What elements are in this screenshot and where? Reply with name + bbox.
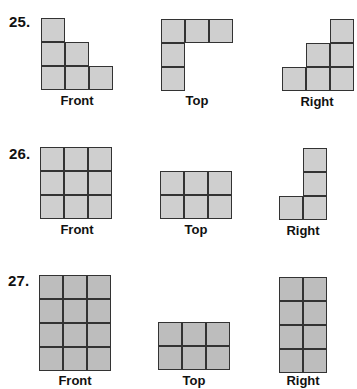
view-label-top: Top <box>154 373 234 388</box>
grid-cell <box>185 19 209 43</box>
grid-cell <box>64 195 88 219</box>
grid-cell <box>303 277 327 301</box>
grid-cell <box>65 66 89 90</box>
grid-cell <box>89 66 113 90</box>
grid-cell <box>40 195 64 219</box>
problem-number: 25. <box>9 13 30 30</box>
grid-cell <box>63 275 87 299</box>
grid-cell <box>64 171 88 195</box>
grid-cell <box>63 347 87 371</box>
grid-cell <box>65 42 89 66</box>
view-label-right: Right <box>263 223 343 238</box>
grid-cell <box>40 147 64 171</box>
grid-cell <box>303 325 327 349</box>
grid-cell <box>160 171 184 195</box>
grid-cell <box>182 346 206 370</box>
grid-cell <box>87 275 111 299</box>
grid-cell <box>303 172 327 196</box>
grid-cell <box>87 347 111 371</box>
grid-cell <box>41 66 65 90</box>
grid-cell <box>64 147 88 171</box>
grid-cell <box>206 346 230 370</box>
grid-cell <box>39 323 63 347</box>
grid-cell <box>88 147 112 171</box>
grid-cell <box>206 322 230 346</box>
grid-cell <box>161 67 185 91</box>
grid-cell <box>330 19 354 43</box>
grid-cell <box>306 67 330 91</box>
view-label-top: Top <box>156 222 236 237</box>
problem-number: 27. <box>8 272 29 289</box>
grid-cell <box>88 171 112 195</box>
grid-cell <box>330 43 354 67</box>
grid-cell <box>158 346 182 370</box>
grid-cell <box>306 43 330 67</box>
grid-cell <box>63 299 87 323</box>
grid-cell <box>303 148 327 172</box>
grid-cell <box>160 195 184 219</box>
grid-cell <box>279 325 303 349</box>
grid-cell <box>87 323 111 347</box>
view-label-front: Front <box>37 93 117 108</box>
grid-cell <box>88 195 112 219</box>
grid-cell <box>40 171 64 195</box>
grid-cell <box>158 322 182 346</box>
grid-cell <box>303 196 327 220</box>
grid-cell <box>182 322 206 346</box>
grid-cell <box>279 349 303 373</box>
grid-cell <box>208 195 232 219</box>
grid-cell <box>39 299 63 323</box>
grid-cell <box>279 301 303 325</box>
grid-cell <box>330 67 354 91</box>
grid-cell <box>303 301 327 325</box>
grid-cell <box>87 299 111 323</box>
grid-cell <box>279 277 303 301</box>
view-label-front: Front <box>37 222 117 237</box>
grid-cell <box>282 67 306 91</box>
grid-cell <box>208 171 232 195</box>
view-label-right: Right <box>277 94 357 109</box>
grid-cell <box>63 323 87 347</box>
problem-number: 26. <box>9 145 30 162</box>
grid-cell <box>39 347 63 371</box>
grid-cell <box>39 275 63 299</box>
grid-cell <box>161 43 185 67</box>
grid-cell <box>161 19 185 43</box>
grid-cell <box>41 42 65 66</box>
view-label-top: Top <box>157 93 237 108</box>
grid-cell <box>41 18 65 42</box>
grid-cell <box>303 349 327 373</box>
grid-cell <box>184 195 208 219</box>
grid-cell <box>279 196 303 220</box>
grid-cell <box>209 19 233 43</box>
grid-cell <box>184 171 208 195</box>
view-label-right: Right <box>263 373 343 388</box>
view-label-front: Front <box>35 373 115 388</box>
